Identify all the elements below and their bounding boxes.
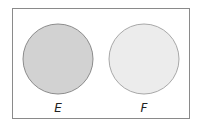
set-e-circle (23, 24, 93, 94)
venn-diagram: E F (0, 0, 199, 124)
set-e-label: E (54, 101, 62, 115)
set-f-label: F (141, 101, 149, 115)
set-f-circle (109, 24, 179, 94)
